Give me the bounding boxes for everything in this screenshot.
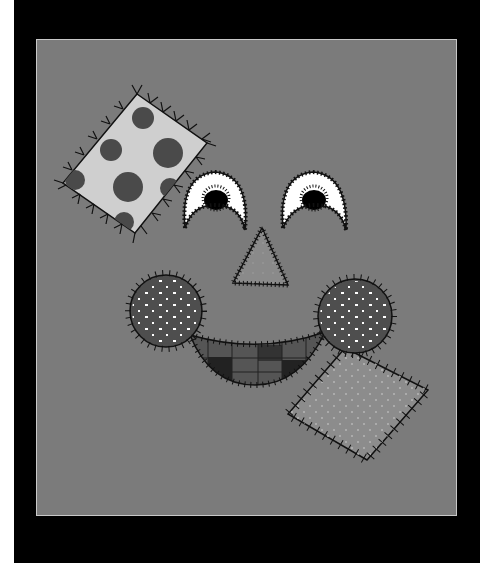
quilt-face-illustration [0, 0, 480, 563]
dotted-patch [288, 348, 428, 460]
nose [233, 228, 288, 285]
right-cheek [316, 277, 394, 355]
mouth [185, 330, 330, 390]
right-eye [282, 172, 346, 230]
left-eye [184, 172, 245, 230]
polka-dot-patch [54, 85, 216, 243]
